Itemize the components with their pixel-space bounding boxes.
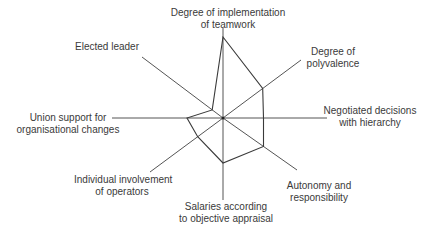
axis-spoke: [223, 118, 297, 170]
label-individual: Individual involvement of operators: [74, 174, 170, 198]
label-autonomy: Autonomy and responsibility: [284, 180, 354, 204]
label-teamwork: Degree of implementation of teamwork: [170, 7, 286, 31]
axis-spoke: [223, 60, 301, 118]
label-salaries: Salaries according to objective appraisa…: [174, 201, 278, 225]
label-elected-leader: Elected leader: [72, 41, 142, 53]
label-union-support: Union support for organisational changes: [16, 112, 120, 136]
axis-spoke: [142, 57, 223, 118]
label-polyvalence: Degree of polyvalence: [303, 46, 363, 70]
axis-spoke: [150, 118, 223, 172]
center-point: [222, 117, 225, 120]
label-negotiated: Negotiated decisions with hierarchy: [318, 105, 422, 129]
